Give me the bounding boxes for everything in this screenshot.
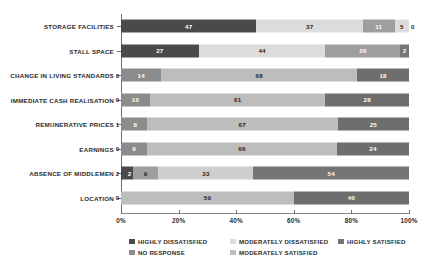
x-axis-tick-label: 0% [116, 217, 126, 224]
chart-legend: HIGHLY DISSATISFIEDMODERATELY DISSATISFI… [129, 236, 419, 258]
segment-value-label: 0 [411, 23, 415, 29]
bar-segment: 44 [199, 44, 326, 57]
segment-value-label: 10 [132, 97, 139, 103]
stacked-bar: 0106128 [121, 93, 409, 106]
bar-segment: 9 [133, 167, 159, 180]
segment-value-label: 54 [328, 170, 335, 176]
legend-item[interactable]: HIGHLY SATISFIED [338, 238, 418, 245]
segment-value-label: 0 [116, 146, 120, 152]
chart-row: REMUNERATIVE PRICES186725 [121, 112, 409, 137]
legend-item[interactable]: HIGHLY DISSATISFIED [129, 238, 230, 245]
category-label: STALL SPACE [69, 47, 114, 54]
segment-value-label: 47 [185, 23, 192, 29]
stacked-bar-chart: STORAGE FACILITIES47371150STALL SPACE274… [0, 0, 427, 277]
stacked-bar: 47371150 [121, 20, 409, 33]
x-axis-tick [179, 210, 180, 214]
chart-row: STORAGE FACILITIES47371150 [121, 14, 409, 39]
stacked-bar: 186725 [121, 118, 409, 131]
x-axis-ticks [121, 210, 409, 215]
x-axis-tick-label: 100% [400, 217, 417, 224]
bar-segment: 25 [338, 118, 409, 131]
bar-segment: 54 [253, 167, 409, 180]
x-axis-tick-label: 20% [172, 217, 185, 224]
segment-value-label: 61 [234, 97, 241, 103]
segment-value-label: 2 [116, 170, 120, 176]
chart-row: STALL SPACE2744262 [121, 39, 409, 64]
legend-swatch-icon [230, 250, 236, 256]
legend-label: HIGHLY DISSATISFIED [138, 238, 207, 245]
x-axis-tick [294, 210, 295, 214]
bar-segment: 14 [121, 69, 161, 82]
segment-value-label: 0 [116, 195, 120, 201]
stacked-bar: 2744262 [121, 44, 409, 57]
stacked-bar: 0146818 [121, 69, 409, 82]
category-label: LOCATION [80, 194, 114, 201]
legend-label: NO RESPONSE [138, 249, 185, 256]
bar-segment: 40 [294, 191, 409, 204]
bar-segment: 59 [121, 191, 294, 204]
bar-segment: 24 [337, 142, 409, 155]
category-label: ABSENCE OF MIDDLEMEN [29, 170, 114, 177]
bar-segment: 61 [150, 93, 326, 106]
segment-value-label: 68 [256, 72, 263, 78]
segment-value-label: 67 [239, 121, 246, 127]
segment-value-label: 37 [306, 23, 313, 29]
segment-value-label: 44 [258, 48, 265, 54]
legend-label: MODERATELY DISSATISFIED [239, 238, 328, 245]
bar-segment: 67 [147, 118, 338, 131]
segment-value-label: 26 [359, 48, 366, 54]
segment-value-label: 14 [138, 72, 145, 78]
segment-value-label: 1 [116, 121, 120, 127]
legend-swatch-icon [129, 239, 135, 245]
category-label: IMMEDIATE CASH REALISATION [11, 96, 114, 103]
segment-value-label: 24 [369, 146, 376, 152]
x-axis-tick-label: 40% [229, 217, 242, 224]
bar-segment: 33 [158, 167, 253, 180]
chart-row: ABSENCE OF MIDDLEMEN2293354 [121, 161, 409, 186]
stacked-bar: 2293354 [121, 167, 409, 180]
x-axis-tick-label: 80% [345, 217, 358, 224]
stacked-bar: 05940 [121, 191, 409, 204]
segment-value-label: 9 [132, 146, 136, 152]
bar-segment: 28 [325, 93, 409, 106]
bar-segment: 8 [124, 118, 147, 131]
segment-value-label: 28 [364, 97, 371, 103]
legend-row: HIGHLY DISSATISFIEDMODERATELY DISSATISFI… [129, 236, 419, 247]
x-axis-tick [236, 210, 237, 214]
category-label: CHANGE IN LIVING STANDARDS [10, 72, 114, 79]
segment-value-label: 27 [156, 48, 163, 54]
segment-value-label: 2 [128, 170, 132, 176]
segment-value-label: 11 [375, 23, 382, 29]
legend-item[interactable]: MODERATELY DISSATISFIED [230, 238, 338, 245]
legend-item[interactable]: MODERATELY SATISFIED [230, 249, 338, 256]
segment-value-label: 0 [116, 97, 120, 103]
segment-value-label: 33 [202, 170, 209, 176]
legend-label: HIGHLY SATISFIED [347, 238, 406, 245]
bar-segment: 27 [121, 44, 199, 57]
legend-swatch-icon [338, 239, 344, 245]
segment-value-label: 5 [400, 23, 404, 29]
segment-value-label: 18 [379, 72, 386, 78]
bar-segment: 66 [147, 142, 337, 155]
bar-segment: 5 [395, 20, 409, 33]
segment-value-label: 59 [204, 195, 211, 201]
x-axis-tick-label: 60% [287, 217, 300, 224]
chart-row: CHANGE IN LIVING STANDARDS0146818 [121, 63, 409, 88]
stacked-bar: 096624 [121, 142, 409, 155]
legend-item[interactable]: NO RESPONSE [129, 249, 230, 256]
category-label: STORAGE FACILITIES [44, 23, 114, 30]
segment-value-label: 25 [370, 121, 377, 127]
chart-row: EARNINGS096624 [121, 137, 409, 162]
bar-segment: 2 [400, 44, 409, 57]
segment-value-label: 0 [116, 72, 120, 78]
bar-segment: 68 [161, 69, 357, 82]
bar-segment: 47 [121, 20, 256, 33]
category-label: EARNINGS [79, 145, 114, 152]
x-axis-tick [409, 210, 410, 214]
bar-segment: 26 [325, 44, 400, 57]
segment-value-label: 66 [238, 146, 245, 152]
chart-row: IMMEDIATE CASH REALISATION0106128 [121, 88, 409, 113]
plot-area: STORAGE FACILITIES47371150STALL SPACE274… [121, 14, 409, 210]
legend-swatch-icon [230, 239, 236, 245]
segment-value-label: 2 [403, 48, 407, 54]
